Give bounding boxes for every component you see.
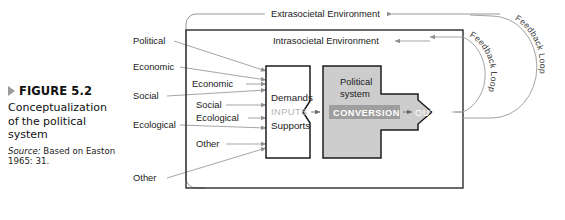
- conversion-label: CONVERSION: [333, 108, 400, 118]
- outer-label-ecological: Ecological: [133, 119, 176, 130]
- extrasocietal-environment-label: Extrasocietal Environment: [271, 8, 380, 19]
- inputs-label: INPUTS: [271, 106, 308, 117]
- outputs-label: OUTPUTS: [415, 108, 462, 118]
- political-system-diagram: Political Economic Social Ecological Oth…: [0, 0, 565, 220]
- outer-input-labels: Political Economic Social Ecological Oth…: [133, 35, 176, 183]
- outer-label-other: Other: [133, 172, 156, 183]
- feedback-loop-label-outer: Feedback Loop: [514, 13, 548, 75]
- demands-label: Demands: [271, 92, 313, 103]
- inner-input-labels: Economic Social Ecological Other: [192, 78, 239, 149]
- figure-container: FIGURE 5.2 Conceptualization of the poli…: [0, 0, 565, 220]
- inner-label-social: Social: [196, 99, 222, 110]
- political-system-label-line1: Political: [340, 76, 372, 87]
- inner-label-ecological: Ecological: [196, 112, 239, 123]
- political-system-label-line2: system: [340, 88, 370, 99]
- supports-label: Supports: [271, 120, 310, 131]
- feedback-loop-outer-text: Feedback Loop: [514, 13, 548, 75]
- inner-label-other: Other: [196, 138, 219, 149]
- inner-feedback-loop: Feedback Loop: [430, 29, 499, 112]
- outer-label-economic: Economic: [133, 61, 174, 72]
- outer-label-social: Social: [133, 90, 159, 101]
- inner-label-economic: Economic: [192, 78, 233, 89]
- intrasocietal-environment-label: Intrasocietal Environment: [273, 35, 379, 46]
- outer-label-political: Political: [133, 35, 165, 46]
